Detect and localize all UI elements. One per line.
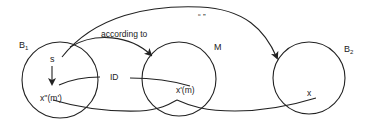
element-x-prime-label: x'(m) <box>176 85 195 95</box>
id-connector-left <box>59 77 100 85</box>
set-b2-circle <box>273 42 345 114</box>
element-s-label: s <box>50 54 55 64</box>
set-b2-label: B2 <box>344 44 354 55</box>
quote-arc-arrow <box>62 7 277 58</box>
set-b1-label-subscript: 1 <box>25 45 29 51</box>
quote-label: “ ” <box>198 12 206 21</box>
set-mapping-diagram: B1 M B2 s x''(m') x'(m) x according to “… <box>0 0 371 126</box>
set-b2-label-subscript: 2 <box>350 49 354 55</box>
id-label: ID <box>110 72 119 82</box>
element-x-label: x <box>307 88 312 98</box>
set-m-label: M <box>214 42 222 52</box>
according-to-label: according to <box>101 29 148 39</box>
set-b1-label: B1 <box>19 40 29 51</box>
set-b1-circle <box>22 42 98 118</box>
according-to-arrow <box>70 38 151 55</box>
